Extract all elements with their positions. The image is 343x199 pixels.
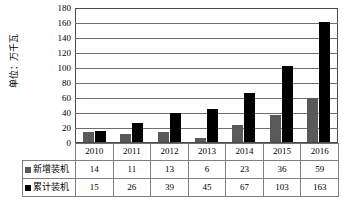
table-cell-新增装机-2014: 23 [226,161,264,179]
table-cell-新增装机-2012: 13 [151,161,189,179]
legend-item-新增装机[interactable]: 新增装机 [23,161,76,179]
legend-swatch-icon [25,167,31,173]
table-cell-新增装机-2010: 14 [76,161,114,179]
legend-item-累计装机[interactable]: 累计装机 [23,179,76,197]
bar-新增装机-2014 [232,125,243,142]
bar-累计装机-2011 [132,123,143,142]
y-axis-tick-label: 180 [37,4,75,13]
bar-累计装机-2012 [170,113,181,142]
bar-新增装机-2013 [195,138,206,142]
table-header-year-2014: 2014 [226,143,264,161]
table-header-year-2015: 2015 [263,143,301,161]
table-header-year-2012: 2012 [151,143,189,161]
y-axis-tick-label: 140 [37,34,75,43]
bar-新增装机-2016 [307,98,318,142]
table-cell-新增装机-2011: 11 [113,161,151,179]
table-row: 累计装机1526394567103163 [23,179,339,197]
bar-group [188,9,225,142]
y-axis-title: 单位：万千瓦 [9,21,19,101]
y-axis-tick-label: 20 [37,124,75,133]
bar-累计装机-2016 [319,22,330,142]
table-cell-累计装机-2010: 15 [76,179,114,197]
bar-series-layer [76,9,337,142]
table-cell-累计装机-2015: 103 [263,179,301,197]
table-header-row: 2010201120122013201420152016 [23,143,339,161]
plot-area: 180160140120100806040200 [75,8,338,143]
table-row: 新增装机1411136233659 [23,161,339,179]
table-header-year-2016: 2016 [301,143,339,161]
table-cell-累计装机-2016: 163 [301,179,339,197]
bar-累计装机-2010 [95,131,106,142]
bar-新增装机-2015 [270,115,281,142]
table-cell-新增装机-2016: 59 [301,161,339,179]
table-cell-累计装机-2013: 45 [188,179,226,197]
bar-group [225,9,262,142]
table-cell-累计装机-2011: 26 [113,179,151,197]
y-axis-tick-label: 40 [37,109,75,118]
data-table: 2010201120122013201420152016新增装机14111362… [22,143,339,197]
legend-swatch-icon [25,185,31,191]
bar-新增装机-2010 [83,132,94,142]
y-axis-tick-label: 100 [37,64,75,73]
y-axis-tick-label: 160 [37,19,75,28]
table-cell-新增装机-2015: 36 [263,161,301,179]
legend-label: 累计装机 [33,182,69,192]
bar-累计装机-2013 [207,109,218,142]
bar-group [151,9,188,142]
bar-group [300,9,337,142]
bar-group [262,9,299,142]
bar-新增装机-2012 [158,132,169,142]
chart-container: 单位：万千瓦 180160140120100806040200 20102011… [0,0,343,199]
bar-累计装机-2015 [282,66,293,142]
bar-group [113,9,150,142]
y-axis-tick-label: 120 [37,49,75,58]
legend-label: 新增装机 [33,164,69,174]
table-header-year-2010: 2010 [76,143,114,161]
table-header-year-2011: 2011 [113,143,151,161]
bar-累计装机-2014 [244,93,255,143]
y-axis-tick-label: 80 [37,79,75,88]
table-cell-累计装机-2014: 67 [226,179,264,197]
table-cell-新增装机-2013: 6 [188,161,226,179]
y-axis-tick-label: 60 [37,94,75,103]
table-corner-cell [23,143,76,161]
table-header-year-2013: 2013 [188,143,226,161]
table-cell-累计装机-2012: 39 [151,179,189,197]
bar-新增装机-2011 [120,134,131,142]
bar-group [76,9,113,142]
